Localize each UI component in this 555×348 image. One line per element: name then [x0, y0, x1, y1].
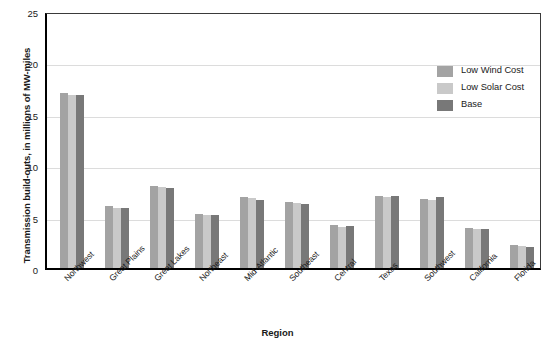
- bar-chart-figure: Transmission build-outs, in millions of …: [0, 0, 555, 348]
- x-axis-tick-label: Mid-Atlantic: [242, 245, 280, 283]
- x-axis-tick-label: Texas: [377, 260, 400, 283]
- legend-swatch: [437, 66, 453, 77]
- x-axis-tick-label: Central: [332, 257, 358, 283]
- x-axis-tick-label: Great Lakes: [152, 244, 191, 283]
- x-axis-tick-label: Northwest: [62, 249, 96, 283]
- x-axis-tick-label: Great Plains: [107, 243, 147, 283]
- legend-item: Base: [437, 98, 549, 113]
- x-axis-tick-label: Southeast: [287, 249, 321, 283]
- legend-swatch: [437, 100, 453, 111]
- chart-legend: Low Wind CostLow Solar CostBase: [437, 64, 549, 115]
- legend-label: Low Wind Cost: [461, 65, 524, 75]
- x-axis-tick-label: Northeast: [197, 250, 230, 283]
- x-axis-title: Region: [0, 327, 555, 338]
- legend-item: Low Wind Cost: [437, 64, 549, 79]
- legend-label: Low Solar Cost: [461, 82, 524, 92]
- x-axis-tick-label: Southwest: [422, 248, 457, 283]
- x-axis-tick-label: Florida: [512, 258, 537, 283]
- legend-swatch: [437, 83, 453, 94]
- x-axis-tick-labels: NorthwestGreat PlainsGreat LakesNortheas…: [0, 0, 555, 348]
- x-axis-tick-label: California: [467, 251, 499, 283]
- legend-label: Base: [461, 99, 482, 109]
- legend-item: Low Solar Cost: [437, 81, 549, 96]
